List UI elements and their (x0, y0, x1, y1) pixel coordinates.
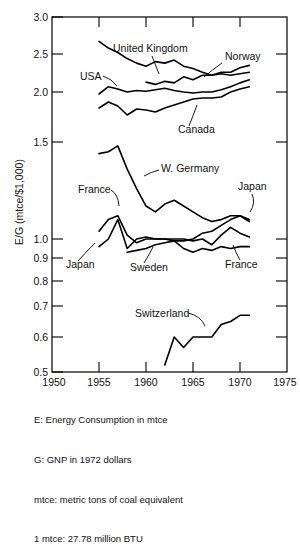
ytick-1-5: 1.5 (33, 136, 48, 148)
ytick-1-0: 1.0 (33, 233, 48, 245)
footnote-mtce: mtce: metric tons of coal equivalent (34, 493, 183, 506)
label-sweden: Sweden (130, 261, 168, 273)
label-usa: USA (80, 70, 102, 82)
label-france-upper: France (78, 183, 111, 195)
chart-footnotes: E: Energy Consumption in mtce G: GNP in … (34, 387, 183, 546)
label-japan-left: Japan (66, 258, 95, 270)
xtick-1970: 1970 (228, 376, 252, 388)
label-switzerland: Switzerland (135, 307, 189, 319)
ytick-3-0: 3.0 (33, 11, 48, 23)
ytick-0-7: 0.7 (33, 300, 48, 312)
ytick-0-9: 0.9 (33, 252, 48, 264)
label-united-kingdom: United Kingdom (113, 42, 188, 54)
label-canada: Canada (178, 123, 215, 135)
label-france-lower: France (225, 258, 258, 270)
ytick-0-6: 0.6 (33, 331, 48, 343)
ytick-2-0: 2.0 (33, 86, 48, 98)
xtick-1965: 1965 (181, 376, 205, 388)
footnote-gnp: G: GNP in 1972 dollars (34, 453, 183, 466)
footnote-mtce-btu: 1 mtce: 27.78 million BTU (34, 532, 183, 545)
label-japan-right: Japan (238, 180, 267, 192)
label-norway: Norway (225, 50, 261, 62)
ytick-0-8: 0.8 (33, 275, 48, 287)
y-axis-title: E/G (mtce/$1,000) (13, 127, 25, 277)
ytick-2-5: 2.5 (33, 48, 48, 60)
label-w-germany: W. Germany (161, 162, 220, 174)
xtick-1975: 1975 (273, 376, 297, 388)
footnote-energy: E: Energy Consumption in mtce (34, 413, 183, 426)
